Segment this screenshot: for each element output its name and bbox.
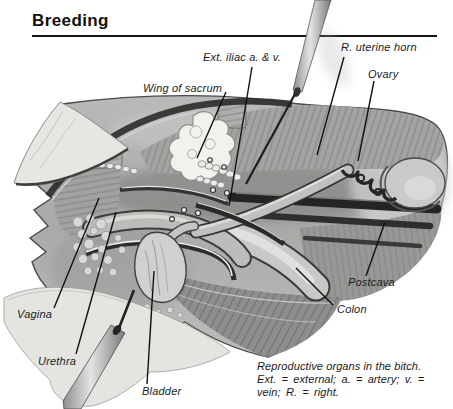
textbook-page: Breeding xyxy=(0,0,453,409)
anatomical-illustration xyxy=(0,0,453,409)
